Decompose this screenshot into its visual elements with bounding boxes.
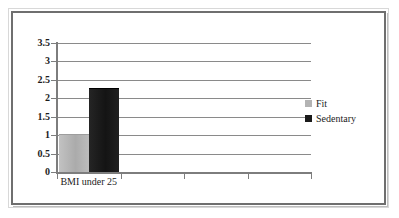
legend-label-fit: Fit — [316, 99, 327, 109]
legend-item-fit: Fit — [305, 97, 385, 110]
y-axis-label: 2.5 — [18, 75, 50, 85]
bar-fit-1 — [59, 134, 89, 172]
legend-item-sedentary: Sedentary — [305, 112, 385, 125]
chart-figure: 00.511.522.533.5 BMI under 25 Fit Sedent… — [0, 0, 399, 218]
x-axis-tick — [184, 172, 185, 179]
y-axis-label: 1 — [18, 130, 50, 140]
y-axis-label: 0 — [18, 167, 50, 177]
y-axis-label: 2 — [18, 93, 50, 103]
plot-wrapper: 00.511.522.533.5 BMI under 25 — [22, 36, 322, 186]
y-axis-label: 1.5 — [18, 112, 50, 122]
legend-label-sedentary: Sedentary — [316, 114, 356, 124]
plot-area — [57, 43, 311, 172]
chart-legend: Fit Sedentary — [305, 97, 385, 127]
y-axis-label: 0.5 — [18, 149, 50, 159]
x-axis-tick — [248, 172, 249, 179]
bar-sedentary-1 — [89, 88, 119, 172]
legend-swatch-sedentary — [305, 115, 312, 122]
y-axis-label: 3 — [18, 56, 50, 66]
x-axis-category-label: BMI under 25 — [57, 176, 121, 187]
y-axis-label: 3.5 — [18, 38, 50, 48]
x-axis-tick — [121, 172, 122, 179]
legend-swatch-fit — [305, 100, 312, 107]
x-axis-tick — [311, 172, 312, 179]
